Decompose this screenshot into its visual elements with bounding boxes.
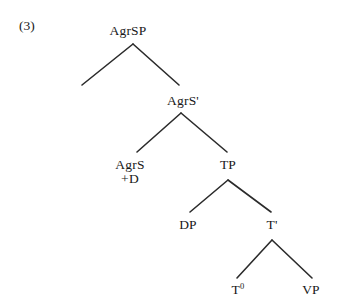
tree-node-agrsp: AgrSP bbox=[109, 24, 146, 38]
tree-node-t-bar: T' bbox=[266, 218, 277, 232]
tree-node-agrs-bar-label: AgrS' bbox=[167, 94, 199, 108]
tree-branch-agrs-bar-to-tp bbox=[181, 113, 227, 152]
tree-branch-tp-to-dp bbox=[190, 180, 228, 212]
tree-node-vp: VP bbox=[302, 283, 320, 297]
tree-branch-tp-to-t-bar bbox=[228, 180, 271, 212]
tree-branch-agrs-bar-to-agrs bbox=[137, 113, 181, 152]
tree-node-vp-label: VP bbox=[302, 283, 320, 297]
syntax-tree-figure: (3) AgrSPAgrS'AgrS+DTPDPT'T0VP bbox=[0, 0, 343, 306]
tree-node-agrs-bar: AgrS' bbox=[167, 94, 199, 108]
tree-branch-agrsp-to-agrs-bar bbox=[133, 44, 179, 85]
example-number: (3) bbox=[19, 18, 35, 33]
tree-node-tp: TP bbox=[220, 158, 236, 172]
tree-node-t-zero-superscript: 0 bbox=[240, 281, 244, 291]
tree-branch-lines bbox=[0, 0, 343, 306]
tree-node-t-zero: T0 bbox=[232, 283, 245, 297]
tree-node-agrs-head-feature: +D bbox=[115, 172, 144, 186]
tree-branch-agrsp-to-spec bbox=[82, 44, 133, 85]
tree-node-t-bar-label: T' bbox=[266, 218, 277, 232]
tree-node-agrs-head: AgrS+D bbox=[115, 158, 144, 186]
tree-node-agrsp-label: AgrSP bbox=[109, 24, 146, 38]
tree-branch-t-bar-to-vp bbox=[272, 240, 312, 278]
tree-node-tp-label: TP bbox=[220, 158, 236, 172]
tree-node-dp: DP bbox=[179, 218, 197, 232]
tree-branch-t-bar-to-t-zero bbox=[237, 240, 272, 278]
tree-node-dp-label: DP bbox=[179, 218, 197, 232]
tree-node-t-zero-label: T0 bbox=[232, 283, 245, 297]
tree-node-agrs-head-label: AgrS bbox=[115, 158, 144, 172]
